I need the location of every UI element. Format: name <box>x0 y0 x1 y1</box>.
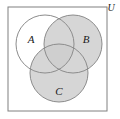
venn-diagram-figure: A B C U <box>0 0 120 119</box>
set-a-label: A <box>27 33 35 45</box>
universal-set-label: U <box>107 2 115 13</box>
venn-diagram-canvas: A B C U <box>0 0 120 119</box>
set-b-label: B <box>83 33 90 45</box>
set-c-label: C <box>55 85 63 97</box>
